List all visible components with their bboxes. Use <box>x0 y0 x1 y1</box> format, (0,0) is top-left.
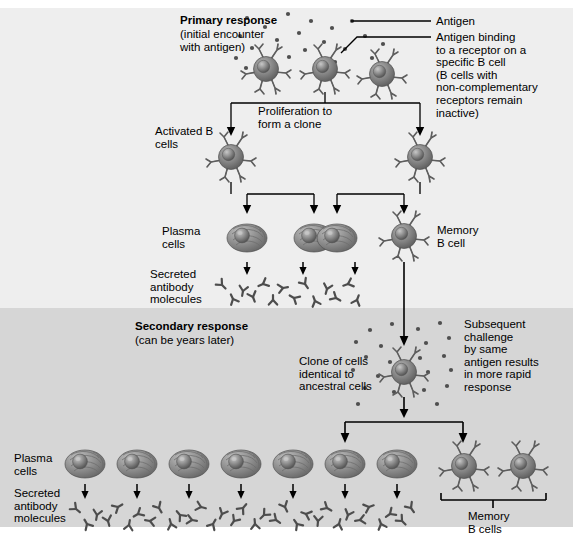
secondary-response-subtitle: (can be years later) <box>135 334 234 347</box>
primary-response-subtitle: (initial encounter with antigen) <box>180 28 264 53</box>
clone-of-cells-label: Clone of cells identical to ancestral ce… <box>299 355 372 393</box>
plasma-cells-top-label: Plasma cells <box>162 225 200 250</box>
memory-b-cell-label: Memory B cell <box>437 224 479 249</box>
diagram-canvas: Primary response (initial encounter with… <box>0 0 573 550</box>
secondary-response-title: Secondary response <box>135 320 248 333</box>
proliferation-label: Proliferation to form a clone <box>258 105 332 130</box>
subsequent-challenge-label: Subsequent challenge by same antigen res… <box>464 318 539 394</box>
antigen-label: Antigen <box>436 15 475 28</box>
secreted-antibody-bottom-label: Secreted antibody molecules <box>14 487 66 525</box>
primary-response-title: Primary response <box>180 14 277 27</box>
antigen-binding-label: Antigen binding to a receptor on a speci… <box>436 31 538 119</box>
plasma-cells-bottom-label: Plasma cells <box>14 452 52 477</box>
memory-b-cells-bottom-label: Memory B cells <box>468 510 510 535</box>
secreted-antibody-top-label: Secreted antibody molecules <box>150 268 202 306</box>
activated-b-cells-label: Activated B cells <box>155 125 213 150</box>
